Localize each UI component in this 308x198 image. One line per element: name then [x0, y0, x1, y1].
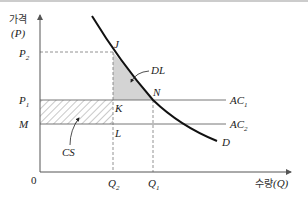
- ac1-label: AC1: [229, 94, 248, 109]
- point-k-label: K: [114, 102, 123, 114]
- cost-saving-area: [40, 100, 113, 124]
- demand-label: D: [221, 136, 230, 148]
- q1-label: Q1: [148, 177, 159, 192]
- point-j-label: J: [114, 38, 120, 50]
- p2-label: P2: [18, 47, 30, 62]
- q2-label: Q2: [108, 177, 120, 192]
- p1-label: P1: [18, 94, 29, 109]
- ac2-label: AC2: [229, 118, 248, 133]
- cs-label: CS: [62, 146, 75, 158]
- y-axis-label-kr: 가격: [9, 13, 27, 25]
- y-axis-label-sym: (P): [11, 27, 25, 40]
- m-label: M: [18, 118, 29, 130]
- dl-label: DL: [150, 64, 165, 76]
- origin-label: 0: [31, 174, 37, 186]
- x-axis-label: 수량(Q): [255, 177, 289, 190]
- monopoly-cost-saving-diagram: 가격 (P) P2 P1 M 0 Q2 Q1 수량(Q) J K N L AC1…: [0, 0, 308, 198]
- point-n-label: N: [152, 86, 161, 98]
- point-l-label: L: [114, 127, 121, 139]
